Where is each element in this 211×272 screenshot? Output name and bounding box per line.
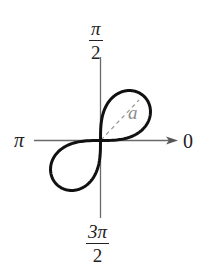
label-pi-over-2: π 2 [89,19,103,62]
label-pi-over-2-numerator: π [89,19,103,40]
label-3pi-over-2-denominator: 2 [93,244,103,265]
label-3pi-over-2-numerator: 3π [86,222,109,243]
label-pi-over-2-denominator: 2 [91,41,101,62]
label-zero: 0 [183,131,193,151]
label-a: a [128,103,138,122]
label-3pi-over-2: 3π 2 [86,222,109,265]
label-pi: π [14,130,24,150]
